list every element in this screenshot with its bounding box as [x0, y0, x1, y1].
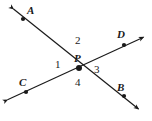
point-p-dot: [76, 65, 82, 71]
angle-label-4: 4: [75, 77, 81, 88]
point-label-d: D: [117, 29, 125, 40]
angle-label-2: 2: [75, 35, 81, 46]
geometry-diagram: A D C B P 1 2 3 4: [0, 0, 152, 121]
point-d-dot: [122, 43, 126, 47]
point-label-b: B: [117, 82, 124, 93]
point-label-c: C: [19, 77, 26, 88]
point-label-a: A: [27, 5, 34, 16]
point-c-dot: [24, 90, 28, 94]
point-b-dot: [122, 94, 126, 98]
angle-label-3: 3: [94, 64, 100, 75]
angle-label-1: 1: [55, 59, 61, 70]
point-a-dot: [21, 17, 25, 21]
point-label-p: P: [74, 53, 81, 64]
